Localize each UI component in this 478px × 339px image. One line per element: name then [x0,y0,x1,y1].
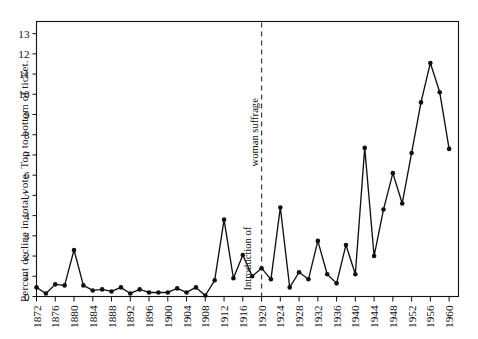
data-point [306,277,311,282]
x-tick-label: 1916 [237,305,249,328]
y-tick-label: 3 [24,230,30,242]
data-point [325,272,330,277]
data-point [90,288,95,293]
x-tick-label: 1888 [106,305,118,328]
chart-plot-area: 012345678910111213 187218761880188418881… [0,0,478,339]
y-tick-label: 6 [24,169,30,181]
data-point [409,151,414,156]
data-point [278,205,283,210]
data-point [419,100,424,105]
y-tick-label: 13 [18,28,30,40]
y-axis-ticks: 012345678910111213 [18,28,36,303]
x-tick-label: 1880 [68,305,80,328]
data-point [100,287,105,292]
data-point [437,90,442,95]
data-point [297,270,302,275]
y-tick-label: 12 [18,48,29,60]
chart-figure: Percent decline in total vote. Top to bo… [0,0,478,339]
y-tick-label: 9 [24,109,30,121]
y-tick-label: 1 [24,270,30,282]
data-point [447,147,452,152]
x-tick-label: 1872 [31,306,43,328]
x-tick-label: 1912 [218,306,230,328]
data-point [372,254,377,259]
x-tick-label: 1944 [368,305,380,328]
data-point [109,289,114,294]
data-point [203,293,208,298]
y-tick-label: 7 [24,149,30,161]
annotation-line-1: Introduction of [242,226,253,290]
data-point [241,253,246,258]
data-point [62,283,67,288]
y-tick-label: 10 [18,88,30,100]
data-point [34,285,39,290]
data-point [231,276,236,281]
x-tick-label: 1896 [143,305,155,328]
annotation-line-2: woman suffrage [249,98,260,167]
y-tick-label: 5 [24,189,30,201]
y-tick-label: 8 [24,129,30,141]
data-point [212,278,217,283]
x-axis-ticks: 1872187618801884188818921896190019041908… [31,297,456,328]
data-point [72,248,77,253]
x-tick-label: 1936 [331,305,343,328]
data-point [44,291,49,296]
data-point [119,285,124,290]
x-tick-label: 1940 [349,305,361,328]
x-tick-label: 1892 [124,306,136,328]
data-point [381,207,386,212]
x-tick-label: 1920 [256,305,268,328]
x-tick-label: 1876 [49,305,61,328]
x-tick-label: 1900 [162,305,174,328]
data-point [53,282,58,287]
y-tick-label: 2 [24,250,30,262]
data-point [128,291,133,296]
x-tick-label: 1948 [387,305,399,328]
data-point [353,272,358,277]
data-point [184,290,189,295]
data-point [259,266,264,271]
y-tick-label: 11 [19,68,30,80]
data-point [137,287,142,292]
x-tick-label: 1904 [181,305,193,328]
x-tick-label: 1884 [87,305,99,328]
data-point [269,277,274,282]
x-tick-label: 1908 [199,305,211,328]
data-point [250,274,255,279]
data-point [344,243,349,248]
data-point [222,217,227,222]
data-point [391,171,396,176]
data-point [147,290,152,295]
y-tick-label: 4 [24,210,30,222]
x-tick-label: 1956 [424,305,436,328]
data-point [287,285,292,290]
data-point [362,146,367,151]
data-point [428,61,433,66]
data-point [334,281,339,286]
y-tick-label: 0 [24,291,30,303]
data-point [194,285,199,290]
x-tick-label: 1960 [443,305,455,328]
data-point [81,283,86,288]
x-tick-label: 1928 [293,305,305,328]
data-point [165,290,170,295]
x-tick-label: 1924 [274,305,286,328]
data-point [156,290,161,295]
x-tick-label: 1952 [406,306,418,328]
data-point [400,201,405,206]
data-point [316,239,321,244]
x-tick-label: 1932 [312,306,324,328]
data-point [175,286,180,291]
